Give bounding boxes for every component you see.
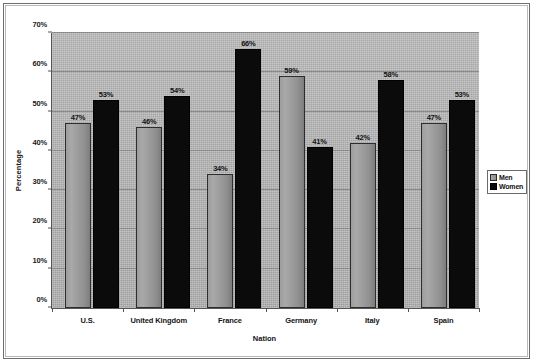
bar-value-label: 53% — [99, 90, 113, 99]
x-axis-title: Nation — [51, 334, 478, 343]
y-tick-label: 30% — [33, 177, 47, 186]
y-tick-label: 0% — [37, 295, 47, 304]
x-tick-label: United Kingdom — [130, 316, 187, 325]
legend-label-men: Men — [499, 174, 512, 181]
legend-swatch-women-icon — [490, 183, 497, 190]
bar-men-2[interactable]: 34% — [207, 174, 233, 308]
bar-women-3[interactable]: 41% — [307, 147, 333, 308]
bar-group: 47%53%U.S. — [52, 33, 123, 308]
x-tick-label: Spain — [433, 316, 453, 325]
bar-men-0[interactable]: 47% — [65, 123, 91, 308]
x-tick-label: Germany — [285, 316, 317, 325]
bar-women-5[interactable]: 53% — [449, 100, 475, 308]
x-tick-mark — [194, 308, 195, 312]
bar-group: 42%58%Italy — [337, 33, 408, 308]
legend-label-women: Women — [499, 183, 523, 190]
y-tick-label: 40% — [33, 137, 47, 146]
x-tick-mark — [266, 308, 267, 312]
y-tick-label: 60% — [33, 59, 47, 68]
x-tick-mark — [123, 308, 124, 312]
bar-value-label: 53% — [455, 90, 469, 99]
bar-value-label: 34% — [213, 164, 227, 173]
legend-swatch-men-icon — [490, 174, 497, 181]
bar-men-1[interactable]: 46% — [136, 127, 162, 308]
bar-men-5[interactable]: 47% — [421, 123, 447, 308]
bar-groups: 47%53%U.S.46%54%United Kingdom34%66%Fran… — [52, 33, 479, 308]
bar-group: 47%53%Spain — [408, 33, 479, 308]
bar-men-4[interactable]: 42% — [350, 143, 376, 308]
x-tick-mark — [408, 308, 409, 312]
bar-value-label: 46% — [142, 117, 156, 126]
legend-item-women: Women — [490, 183, 523, 190]
legend-item-men: Men — [490, 174, 523, 181]
y-axis-title: Percentage — [12, 33, 24, 308]
y-tick-label: 70% — [33, 20, 47, 29]
bar-value-label: 59% — [284, 66, 298, 75]
bar-value-label: 47% — [427, 113, 441, 122]
plot-area: 0%10%20%30%40%50%60%70% 47%53%U.S.46%54%… — [51, 33, 479, 309]
bar-group: 34%66%France — [194, 33, 265, 308]
y-tick-label: 20% — [33, 216, 47, 225]
bar-women-4[interactable]: 58% — [378, 80, 404, 308]
x-tick-mark — [52, 308, 53, 312]
bar-value-label: 58% — [383, 70, 397, 79]
bar-value-label: 42% — [355, 133, 369, 142]
bar-value-label: 47% — [71, 113, 85, 122]
bar-value-label: 41% — [312, 137, 326, 146]
x-tick-mark — [337, 308, 338, 312]
y-tick-label: 10% — [33, 255, 47, 264]
bar-group: 46%54%United Kingdom — [123, 33, 194, 308]
bar-women-0[interactable]: 53% — [93, 100, 119, 308]
x-tick-mark — [479, 308, 480, 312]
bar-women-1[interactable]: 54% — [164, 96, 190, 308]
bar-women-2[interactable]: 66% — [235, 49, 261, 308]
bar-group: 59%41%Germany — [266, 33, 337, 308]
x-tick-label: France — [218, 316, 242, 325]
y-tick-label: 50% — [33, 98, 47, 107]
bar-value-label: 54% — [170, 86, 184, 95]
bar-men-3[interactable]: 59% — [279, 76, 305, 308]
bar-value-label: 66% — [241, 39, 255, 48]
x-tick-label: Italy — [365, 316, 380, 325]
chart-legend: Men Women — [487, 170, 527, 194]
x-tick-label: U.S. — [80, 316, 94, 325]
chart-frame: Percentage 0%10%20%30%40%50%60%70% 47%53… — [3, 3, 530, 359]
